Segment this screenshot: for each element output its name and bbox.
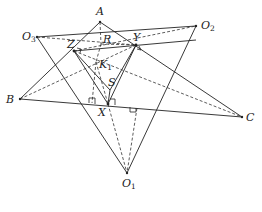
point-O3: [36, 36, 38, 38]
label-Y: Y: [133, 31, 142, 44]
geometry-diagram: A B C O1 O2 O3 Z Y X R S K1: [0, 0, 262, 212]
label-O3: O3: [22, 30, 36, 44]
point-C: [241, 116, 243, 118]
dashed-AR: [100, 22, 101, 44]
segment-BC: [20, 99, 242, 117]
label-K1: K1: [98, 58, 112, 72]
dashed-O3Y: [37, 37, 136, 45]
point-O1: [126, 172, 128, 174]
point-Y: [135, 44, 138, 47]
label-C: C: [246, 111, 255, 124]
label-X: X: [97, 106, 107, 119]
label-O2: O2: [201, 19, 215, 33]
label-Z: Z: [66, 38, 75, 51]
label-S: S: [108, 76, 116, 89]
point-X: [107, 103, 110, 106]
point-B: [19, 98, 21, 100]
dashed-BY: [20, 45, 136, 99]
point-O2: [195, 25, 197, 27]
point-A: [99, 21, 101, 23]
segment-O3O2: [37, 26, 196, 37]
label-A: A: [95, 5, 104, 18]
dashed-XO1: [108, 104, 127, 173]
label-R: R: [102, 33, 111, 46]
dashed-K1-foot: [92, 62, 96, 103]
diagram-canvas: A B C O1 O2 O3 Z Y X R S K1: [0, 0, 262, 212]
label-B: B: [5, 93, 14, 106]
segment-YX: [108, 45, 136, 104]
label-O1: O1: [122, 177, 136, 191]
right-angle-X: [110, 99, 115, 105]
segment-O3O1: [37, 37, 127, 173]
segment-O2O1: [127, 26, 196, 173]
